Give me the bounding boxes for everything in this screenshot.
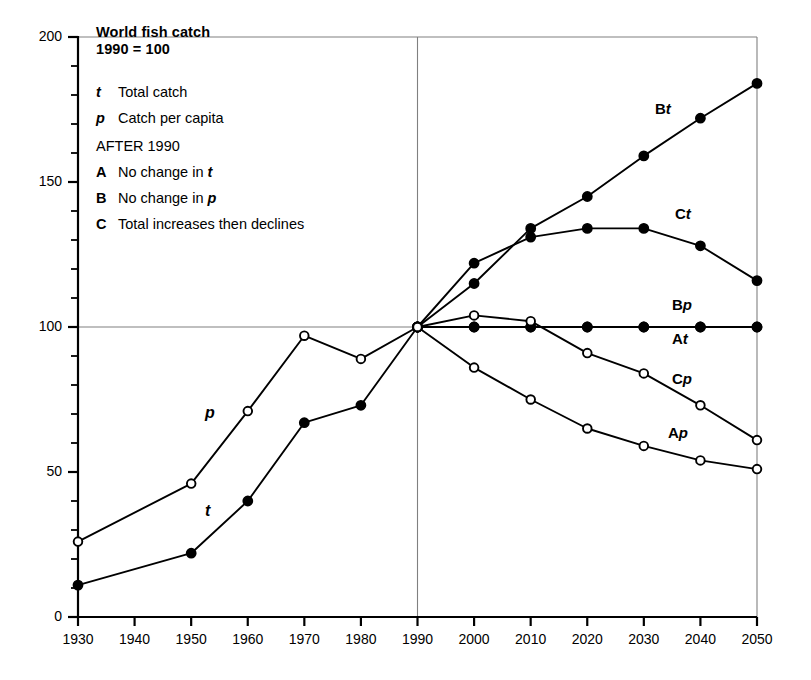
legend-key-b: B — [96, 190, 118, 207]
data-point-Cp-2020 — [583, 349, 592, 358]
data-point-p-1970 — [300, 331, 309, 340]
data-point-Bt-2050 — [752, 79, 761, 88]
x-axis-tick-label-2030: 2030 — [614, 631, 674, 647]
x-axis-tick-label-1930: 1930 — [48, 631, 108, 647]
legend-key-c: C — [96, 216, 118, 233]
data-point-Cp-2040 — [696, 401, 705, 410]
legend-text-b: No change in p — [118, 190, 216, 206]
data-point-Ct-2050 — [752, 276, 761, 285]
data-point-t-1970 — [300, 418, 309, 427]
data-point-Bp-2040 — [696, 322, 705, 331]
x-axis-tick-label-1950: 1950 — [161, 631, 221, 647]
data-point-Ct-2000 — [470, 259, 479, 268]
data-point-Ap-2030 — [640, 442, 649, 451]
legend-entry-t: tTotal catch — [96, 84, 426, 101]
curve-label-bt: Bt — [655, 100, 671, 117]
curve-label-ct: Ct — [675, 205, 691, 222]
data-point-Bt-2030 — [639, 151, 648, 160]
x-axis-tick-label-2050: 2050 — [727, 631, 787, 647]
data-point-Bp-2030 — [639, 322, 648, 331]
data-point-p-1950 — [187, 479, 196, 488]
data-point-t-1960 — [243, 496, 252, 505]
series-line-Ct — [418, 228, 758, 327]
x-axis-tick-label-1980: 1980 — [331, 631, 391, 647]
y-axis-tick-label-150: 150 — [0, 173, 62, 189]
x-axis-tick-label-2010: 2010 — [501, 631, 561, 647]
data-point-t-1930 — [73, 581, 82, 590]
data-point-t-1980 — [356, 401, 365, 410]
data-point-Ap-2010 — [526, 395, 535, 404]
x-axis-tick-label-2040: 2040 — [670, 631, 730, 647]
y-axis-tick-label-0: 0 — [0, 608, 62, 624]
data-point-Bp-2020 — [583, 322, 592, 331]
data-point-Bt-2010 — [526, 224, 535, 233]
series-line-Cp — [418, 315, 758, 440]
x-axis-tick-label-1940: 1940 — [105, 631, 165, 647]
series-line-t — [78, 327, 418, 585]
data-point-Ap-2050 — [753, 465, 762, 474]
data-point-Ap-2020 — [583, 424, 592, 433]
series-inline-label-p-historic: p — [205, 404, 215, 422]
data-point-Ct-2030 — [639, 224, 648, 233]
legend-block: World fish catch 1990 = 100 tTotal catch… — [96, 24, 426, 233]
x-axis-tick-label-2000: 2000 — [444, 631, 504, 647]
data-point-Ct-2020 — [583, 224, 592, 233]
curve-label-at: At — [672, 330, 688, 347]
series-line-p — [78, 327, 418, 542]
x-axis-tick-label-1970: 1970 — [274, 631, 334, 647]
data-point-Cp-2000 — [470, 311, 479, 320]
x-axis-tick-label-2020: 2020 — [557, 631, 617, 647]
y-axis-tick-label-200: 200 — [0, 28, 62, 44]
series-inline-label-t-historic: t — [205, 502, 210, 520]
data-point-Cp-2050 — [753, 436, 762, 445]
legend-key-p: p — [96, 110, 118, 127]
data-point-Bt-2020 — [583, 192, 592, 201]
series-line-Bt — [418, 83, 758, 327]
data-point-Ap-2040 — [696, 456, 705, 465]
data-point-Ct-2010 — [526, 233, 535, 242]
y-axis-tick-label-100: 100 — [0, 318, 62, 334]
data-point-Ct-2040 — [696, 241, 705, 250]
legend-text-p: Catch per capita — [118, 110, 224, 126]
legend-text-t: Total catch — [118, 84, 187, 100]
chart-subtitle: 1990 = 100 — [96, 41, 426, 58]
legend-key-t: t — [96, 84, 118, 101]
legend-text-a: No change in t — [118, 164, 212, 180]
legend-section-heading: AFTER 1990 — [96, 138, 426, 155]
data-point-Bp-2000 — [470, 322, 479, 331]
legend-entry-scenario-c: CTotal increases then declines — [96, 216, 426, 233]
chart-title: World fish catch — [96, 24, 426, 41]
data-point-t-1950 — [187, 549, 196, 558]
data-point-Cp-2010 — [526, 317, 535, 326]
legend-key-a: A — [96, 164, 118, 181]
legend-text-c: Total increases then declines — [118, 216, 304, 232]
data-point-p-1960 — [244, 407, 253, 416]
data-point-Bt-2000 — [470, 279, 479, 288]
legend-entry-scenario-a: ANo change in t — [96, 164, 426, 181]
curve-label-cp: Cp — [672, 370, 692, 387]
x-axis-tick-label-1960: 1960 — [218, 631, 278, 647]
data-point-Bp-2050 — [752, 322, 761, 331]
data-point-p-1930 — [74, 537, 83, 546]
data-point-Ap-2000 — [470, 363, 479, 372]
y-axis-tick-label-50: 50 — [0, 463, 62, 479]
data-point-p-1980 — [357, 355, 366, 364]
curve-label-bp: Bp — [672, 296, 692, 313]
x-axis-tick-label-1990: 1990 — [388, 631, 448, 647]
data-point-Bt-2040 — [696, 114, 705, 123]
legend-entry-p: pCatch per capita — [96, 110, 426, 127]
data-point-Ap-1990 — [413, 323, 422, 332]
legend-entry-scenario-b: BNo change in p — [96, 190, 426, 207]
data-point-Cp-2030 — [640, 369, 649, 378]
curve-label-ap: Ap — [668, 424, 688, 441]
chart-figure: World fish catch 1990 = 100 tTotal catch… — [0, 0, 811, 680]
